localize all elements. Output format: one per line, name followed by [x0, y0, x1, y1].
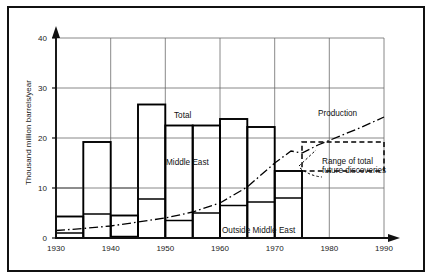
y-tick-label-0: 0: [43, 234, 48, 243]
bar-1960-total: [220, 119, 247, 238]
annotation-range-line2: future discoveries: [322, 166, 386, 175]
oil-discovery-chart: 40 30 20 10 0 1930 1940 1950 1960 1970 1…: [0, 0, 432, 279]
x-tick-label-1990: 1990: [375, 244, 393, 253]
y-axis-title: Thousand million barrels/year: [24, 80, 33, 185]
chart-annotations: Total Middle East Outside Middle East Pr…: [166, 109, 386, 235]
y-tick-label-20: 20: [38, 134, 47, 143]
range-leader-lower: [300, 168, 322, 177]
x-tick-label-1950: 1950: [156, 244, 174, 253]
x-tick-label-1930: 1930: [47, 244, 65, 253]
x-tick-label-1940: 1940: [102, 244, 120, 253]
annotation-middle-east: Middle East: [166, 158, 210, 167]
x-tick-label-1980: 1980: [320, 244, 338, 253]
y-tick-label-30: 30: [38, 84, 47, 93]
annotation-production: Production: [318, 109, 358, 118]
bar-1940-total: [111, 216, 138, 239]
annotation-range-line1: Range of total: [322, 157, 373, 166]
bar-1930-total: [56, 217, 83, 239]
x-tick-label-1960: 1960: [211, 244, 229, 253]
annotation-outside-middle-east: Outside Middle East: [222, 226, 296, 235]
bar-1965-total: [247, 127, 274, 238]
axes: [56, 34, 392, 238]
bar-1935-total: [83, 142, 110, 238]
figure-container: 40 30 20 10 0 1930 1940 1950 1960 1970 1…: [0, 0, 432, 279]
y-axis-arrow: [52, 26, 60, 38]
y-tick-label-10: 10: [38, 184, 47, 193]
y-tick-labels: 40 30 20 10 0: [38, 34, 47, 243]
annotation-total: Total: [174, 111, 191, 120]
x-tick-label-1970: 1970: [266, 244, 284, 253]
axis-arrowheads: [52, 26, 400, 242]
bar-1955-total: [193, 126, 220, 239]
y-tick-label-40: 40: [38, 34, 47, 43]
x-axis-arrow: [388, 234, 400, 242]
x-tick-labels: 1930 1940 1950 1960 1970 1980 1990: [47, 244, 393, 253]
